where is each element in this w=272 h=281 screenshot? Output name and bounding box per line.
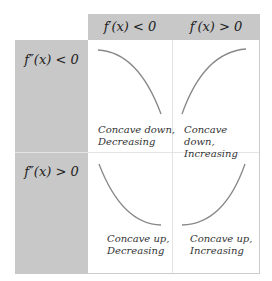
column-header-fprime-negative: f′(x) < 0 [88, 14, 172, 40]
caption-concave-up-increasing: Concave up, Increasing [190, 233, 252, 257]
row-header-fdoubleprime-negative: f″(x) < 0 [15, 52, 88, 67]
caption-line: Increasing [190, 245, 252, 257]
caption-concave-up-decreasing: Concave up, Decreasing [107, 233, 169, 257]
row-header-column: f″(x) < 0 f″(x) > 0 [15, 40, 88, 274]
column-header-row: f′(x) < 0 f′(x) > 0 [88, 14, 260, 40]
caption-line: Concave up, [190, 233, 252, 245]
caption-concave-down-decreasing: Concave down, Decreasing [98, 124, 175, 148]
concavity-grid: Concave down, Decreasing Concave down, I… [88, 40, 260, 274]
row-header-fdoubleprime-positive: f″(x) > 0 [15, 164, 88, 179]
caption-line: Concave down, [98, 124, 175, 136]
caption-line: Concave down, [184, 124, 259, 148]
caption-line: Concave up, [107, 233, 169, 245]
column-header-fprime-positive: f′(x) > 0 [172, 14, 260, 40]
caption-line: Decreasing [98, 136, 175, 148]
caption-line: Decreasing [107, 245, 169, 257]
